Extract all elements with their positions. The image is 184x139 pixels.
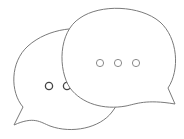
chat-bubbles-illustration <box>0 0 184 139</box>
front-speech-bubble-icon <box>62 8 176 107</box>
